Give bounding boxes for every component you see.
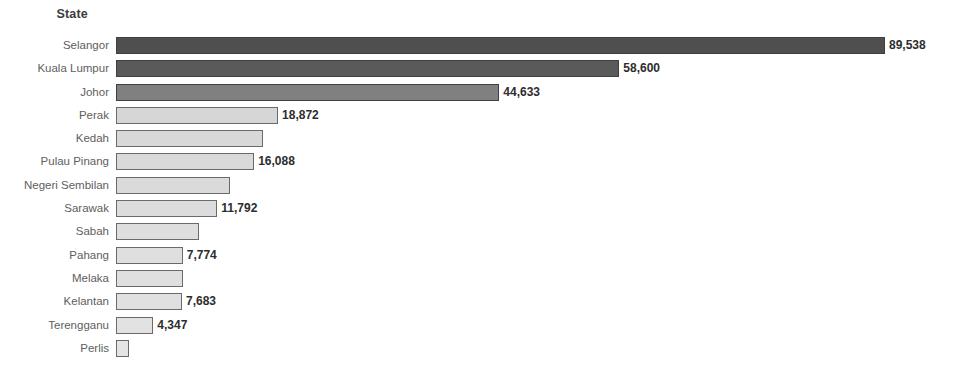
bar[interactable]: [116, 37, 885, 54]
bar-value-label: 44,633: [501, 83, 540, 102]
bar[interactable]: [116, 153, 254, 170]
bar-track: [116, 220, 954, 243]
bar-value-label: 18,872: [280, 106, 319, 125]
bar-row[interactable]: Sarawak11,792: [0, 197, 954, 220]
category-label: Sarawak: [0, 197, 113, 220]
category-label: Selangor: [0, 34, 113, 57]
bar[interactable]: [116, 107, 278, 124]
bar-value-label: 58,600: [621, 59, 660, 78]
bar[interactable]: [116, 293, 182, 310]
bar[interactable]: [116, 340, 129, 357]
category-label: Kelantan: [0, 290, 113, 313]
plot-area: Selangor89,538Kuala Lumpur58,600Johor44,…: [0, 34, 954, 372]
bar-track: [116, 337, 954, 360]
bar-row[interactable]: Perlis: [0, 337, 954, 360]
bar-row[interactable]: Negeri Sembilan: [0, 174, 954, 197]
bar[interactable]: [116, 270, 183, 287]
bar-value-label: 4,347: [155, 316, 187, 335]
bar[interactable]: [116, 247, 183, 264]
bar-value-label: 7,683: [184, 292, 216, 311]
bar-row[interactable]: Kedah: [0, 127, 954, 150]
bar-row[interactable]: Kelantan7,683: [0, 290, 954, 313]
category-label: Negeri Sembilan: [0, 174, 113, 197]
category-label: Perak: [0, 104, 113, 127]
bar-row[interactable]: Sabah: [0, 220, 954, 243]
category-label: Johor: [0, 81, 113, 104]
category-label: Pulau Pinang: [0, 150, 113, 173]
axis-title: State: [0, 7, 116, 21]
category-label: Terengganu: [0, 314, 113, 337]
bar[interactable]: [116, 130, 263, 147]
bar-track: [116, 127, 954, 150]
category-label: Sabah: [0, 220, 113, 243]
bar-value-label: 7,774: [185, 246, 217, 265]
bar-track: [116, 267, 954, 290]
bar-chart: State Selangor89,538Kuala Lumpur58,600Jo…: [0, 0, 954, 372]
bar-track: 89,538: [116, 34, 954, 57]
bar-track: 7,774: [116, 244, 954, 267]
bar-value-label: 89,538: [887, 36, 926, 55]
bar-value-label: 11,792: [219, 199, 257, 218]
bar[interactable]: [116, 60, 619, 77]
bar-row[interactable]: Terengganu4,347: [0, 314, 954, 337]
category-label: Kuala Lumpur: [0, 57, 113, 80]
bar-track: 44,633: [116, 81, 954, 104]
bar[interactable]: [116, 200, 217, 217]
bar-row[interactable]: Pulau Pinang16,088: [0, 150, 954, 173]
bar-track: 11,792: [116, 197, 954, 220]
bar-track: 58,600: [116, 57, 954, 80]
bar-track: [116, 174, 954, 197]
category-label: Melaka: [0, 267, 113, 290]
bar[interactable]: [116, 177, 230, 194]
category-label: Pahang: [0, 244, 113, 267]
bar-row[interactable]: Kuala Lumpur58,600: [0, 57, 954, 80]
category-label: Perlis: [0, 337, 113, 360]
bar-value-label: 16,088: [256, 152, 295, 171]
bar-track: 7,683: [116, 290, 954, 313]
bar-track: 18,872: [116, 104, 954, 127]
category-label: Kedah: [0, 127, 113, 150]
bar-row[interactable]: Selangor89,538: [0, 34, 954, 57]
bar-track: 4,347: [116, 314, 954, 337]
bar[interactable]: [116, 84, 499, 101]
bar[interactable]: [116, 317, 153, 334]
bar-track: 16,088: [116, 150, 954, 173]
bar-row[interactable]: Johor44,633: [0, 81, 954, 104]
bar[interactable]: [116, 223, 199, 240]
bar-row[interactable]: Pahang7,774: [0, 244, 954, 267]
bar-row[interactable]: Melaka: [0, 267, 954, 290]
bar-row[interactable]: Perak18,872: [0, 104, 954, 127]
